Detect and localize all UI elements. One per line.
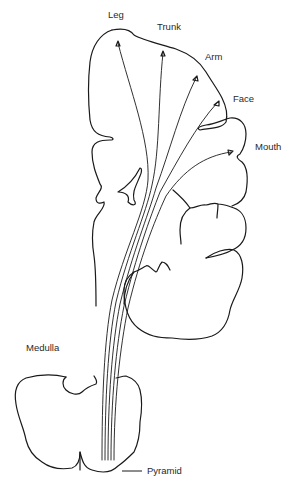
fiber-face xyxy=(111,103,217,460)
brain-section-drawing xyxy=(0,0,298,480)
label-medulla: Medulla xyxy=(26,343,59,353)
temporal-lobe-upper xyxy=(173,190,246,258)
medulla-outline xyxy=(63,376,97,394)
temporal-notch xyxy=(217,204,218,218)
arrowhead-face xyxy=(214,101,219,106)
sulcus-island xyxy=(118,168,142,205)
temporal-lobe-inner xyxy=(180,208,190,244)
diagram-canvas: Leg Trunk Arm Face Mouth Medulla Pyramid xyxy=(0,0,298,480)
corticospinal-fibers xyxy=(102,43,231,460)
label-mouth: Mouth xyxy=(255,142,281,152)
fiber-trunk xyxy=(105,53,163,460)
pyramid-pointer xyxy=(118,469,142,474)
label-trunk: Trunk xyxy=(157,22,181,32)
temporal-lobe-lower xyxy=(124,249,243,339)
label-leg: Leg xyxy=(108,10,124,20)
label-face: Face xyxy=(233,94,254,104)
label-pyramid: Pyramid xyxy=(147,466,182,476)
fiber-mouth xyxy=(114,152,231,460)
medulla-body xyxy=(15,375,141,472)
cortex-left-outline xyxy=(89,30,114,306)
label-arm: Arm xyxy=(205,52,222,62)
